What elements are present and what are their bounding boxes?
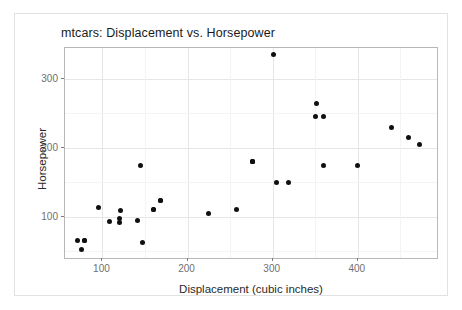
data-point [321,163,326,168]
x-tick-label: 200 [178,263,195,274]
data-point [151,207,156,212]
data-point [75,238,80,243]
data-point [107,219,112,224]
grid-line [145,48,146,258]
data-point [250,159,255,164]
grid-line [315,48,316,258]
data-point [313,114,318,119]
grid-line [65,113,437,114]
y-tick-mark [61,216,64,217]
data-point [82,238,87,243]
x-axis-label: Displacement (cubic inches) [64,283,438,295]
data-point [234,207,239,212]
data-point [321,114,326,119]
data-point [135,218,140,223]
x-tick-mark [357,258,358,261]
y-tick-label: 300 [18,72,58,83]
data-point [158,198,163,203]
x-tick-label: 400 [348,263,365,274]
chart-title: mtcars: Displacement vs. Horsepower [61,26,275,40]
data-point [117,220,122,225]
grid-line [65,182,437,183]
grid-line [230,48,231,258]
x-tick-mark [272,258,273,261]
data-point [389,125,394,130]
data-point [206,211,211,216]
data-point [274,180,279,185]
grid-line [65,148,437,149]
data-point [355,163,360,168]
y-axis-label: Horsepower [36,109,48,209]
data-point [314,101,319,106]
y-tick-mark [61,78,64,79]
data-point [286,180,291,185]
plot-panel [64,47,438,259]
data-point [118,208,123,213]
x-tick-mark [101,258,102,261]
data-point [271,52,276,57]
data-point [96,205,101,210]
grid-line [65,251,437,252]
data-point [140,240,145,245]
x-tick-mark [187,258,188,261]
data-point [417,142,422,147]
y-tick-mark [61,147,64,148]
grid-line [400,48,401,258]
x-tick-label: 300 [263,263,280,274]
y-tick-label: 100 [18,210,58,221]
x-tick-label: 100 [93,263,110,274]
chart-figure: mtcars: Displacement vs. Horsepower 1002… [14,13,448,296]
data-point [406,135,411,140]
data-point [138,163,143,168]
grid-line [65,79,437,80]
